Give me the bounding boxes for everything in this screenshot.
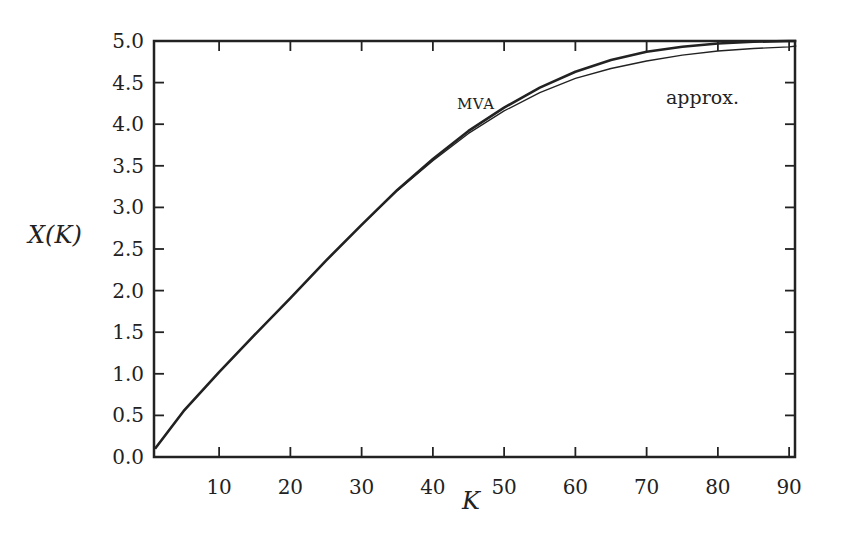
- x-tick-label: 10: [206, 475, 231, 499]
- y-tick-label: 2.5: [112, 237, 144, 261]
- x-tick-label: 30: [349, 475, 374, 499]
- y-tick-label: 4.5: [112, 71, 144, 95]
- y-tick-label: 5.0: [112, 29, 144, 53]
- x-tick-label: 50: [491, 475, 516, 499]
- y-tick-label: 2.0: [112, 279, 144, 303]
- y-axis-title: X(K): [26, 221, 82, 249]
- y-tick-label: 3.0: [112, 195, 144, 219]
- y-tick-label: 1.0: [112, 362, 144, 386]
- y-tick-label: 4.0: [112, 112, 144, 136]
- x-tick-label: 20: [278, 475, 303, 499]
- y-tick-label: 0.5: [112, 403, 144, 427]
- y-tick-label: 1.5: [112, 320, 144, 344]
- x-tick-label: 60: [563, 475, 588, 499]
- x-tick-label: 70: [634, 475, 659, 499]
- y-tick-label: 0.0: [112, 445, 144, 469]
- series-label-approx: approx.: [666, 86, 739, 108]
- x-tick-label: 90: [776, 475, 801, 499]
- x-tick-label: 80: [705, 475, 730, 499]
- x-axis-title: K: [461, 487, 482, 515]
- y-tick-label: 3.5: [112, 154, 144, 178]
- x-tick-label: 40: [420, 475, 445, 499]
- chart: 1020304050607080900.00.51.01.52.02.53.03…: [0, 0, 842, 539]
- series-label-mva: MVA: [457, 95, 495, 113]
